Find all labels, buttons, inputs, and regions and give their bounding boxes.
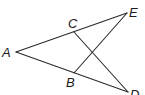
label-point-e: E <box>129 5 138 20</box>
geometry-diagram: A C E B D <box>0 0 145 95</box>
label-point-d: D <box>130 87 139 95</box>
label-point-b: B <box>66 75 75 90</box>
label-point-a: A <box>1 45 11 60</box>
label-point-c: C <box>68 16 78 31</box>
segment-cd <box>74 32 128 92</box>
